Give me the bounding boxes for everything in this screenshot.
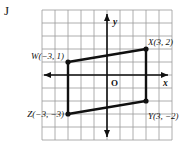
x-axis-label: x	[162, 78, 168, 88]
x-axis	[44, 72, 168, 78]
vertex-z	[65, 111, 70, 116]
problem-letter: J	[4, 4, 9, 17]
origin-label: O	[111, 78, 118, 88]
vertex-x	[143, 46, 148, 51]
coordinate-grid-figure: J	[0, 0, 186, 153]
y-axis-label: y	[112, 17, 118, 27]
vertex-y	[143, 98, 148, 103]
vertex-label-z: Z(−3, −3)	[27, 109, 64, 119]
vertex-label-w: W(−3, 1)	[31, 51, 64, 61]
vertex-label-y: Y(3, −2)	[148, 111, 179, 121]
vertex-w	[65, 59, 70, 64]
coordinate-plane-svg: y x O X(3, 2) W(−3, 1) Z(−3, −3) Y(3, −2…	[0, 0, 186, 153]
vertex-label-x: X(3, 2)	[147, 37, 173, 47]
